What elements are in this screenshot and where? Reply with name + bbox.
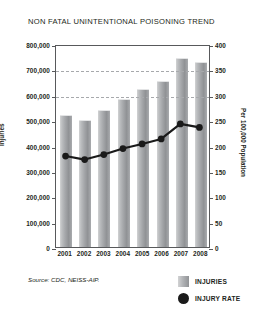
y-axis-right-title: Per 100,000 Population — [240, 108, 247, 177]
y-axis-left-tick — [52, 198, 56, 199]
y-axis-left-tick — [52, 97, 56, 98]
y-axis-right-tick-label: 350 — [215, 67, 226, 74]
y-axis-left-tick — [52, 122, 56, 123]
gridline — [56, 97, 209, 98]
injury-rate-marker — [139, 141, 146, 148]
y-axis-left-tick — [52, 71, 56, 72]
y-axis-right-tick — [209, 97, 213, 98]
y-axis-right-tick-label: 50 — [215, 219, 222, 226]
y-axis-right-tick — [209, 148, 213, 149]
y-axis-left-tick — [52, 173, 56, 174]
y-axis-right-tick-label: 150 — [215, 168, 226, 175]
x-axis-tick-label: 2004 — [116, 250, 131, 257]
y-axis-left-title: Injuries — [0, 124, 5, 146]
chart-container: NON FATAL UNINTENTIONAL POISONING TREND … — [0, 0, 271, 320]
injury-rate-marker — [62, 153, 69, 160]
chart-legend: INJURIES INJURY RATE — [178, 276, 240, 310]
y-axis-right-tick — [209, 122, 213, 123]
y-axis-left-tick-label: 0 — [46, 245, 50, 252]
gridline — [56, 71, 209, 72]
y-axis-right-tick — [209, 71, 213, 72]
x-axis-tick-label: 2005 — [135, 250, 150, 257]
legend-label-injuries: INJURIES — [195, 278, 227, 285]
y-axis-left-tick — [52, 148, 56, 149]
y-axis-left-tick-label: 300,000 — [26, 168, 50, 175]
circle-marker-icon — [178, 293, 189, 304]
y-axis-left-tick-label: 600,000 — [26, 92, 50, 99]
injury-rate-marker — [196, 124, 203, 131]
injury-rate-marker — [158, 136, 165, 143]
y-axis-right-tick — [209, 198, 213, 199]
square-swatch-icon — [178, 276, 189, 287]
injury-rate-line-layer — [56, 46, 209, 247]
y-axis-left-tick-label: 500,000 — [26, 118, 50, 125]
y-axis-right-tick-label: 400 — [215, 42, 226, 49]
injury-rate-line — [66, 124, 200, 160]
y-axis-right-tick-label: 100 — [215, 194, 226, 201]
injury-rate-marker — [120, 145, 127, 152]
y-axis-left-labels: 0100,000200,000300,000400,000500,000600,… — [0, 45, 53, 248]
y-axis-right-tick-label: 250 — [215, 118, 226, 125]
x-axis-labels: 20012002200320042005200620072008 — [55, 250, 210, 262]
y-axis-left-tick-label: 700,000 — [26, 67, 50, 74]
injury-rate-marker — [81, 156, 88, 163]
x-axis-tick-label: 2008 — [193, 250, 208, 257]
x-axis-tick-label: 2007 — [174, 250, 189, 257]
y-axis-left-tick-label: 400,000 — [26, 143, 50, 150]
y-axis-right-tick-label: 200 — [215, 143, 226, 150]
x-axis-tick-label: 2006 — [154, 250, 169, 257]
x-axis-tick-label: 2001 — [57, 250, 72, 257]
y-axis-left-tick-label: 100,000 — [26, 219, 50, 226]
y-axis-right-tick — [209, 46, 213, 47]
y-axis-right-tick-label: 300 — [215, 92, 226, 99]
y-axis-left-tick — [52, 46, 56, 47]
plot-area — [55, 45, 210, 248]
injury-rate-marker — [100, 151, 107, 158]
y-axis-right-tick — [209, 173, 213, 174]
y-axis-left-tick — [52, 224, 56, 225]
source-note: Source: CDC, NEISS-AIP. — [28, 276, 99, 283]
y-axis-right-tick-label: 0 — [215, 245, 219, 252]
x-axis-tick-label: 2003 — [96, 250, 111, 257]
legend-item-injury-rate: INJURY RATE — [178, 293, 240, 304]
y-axis-right-tick — [209, 224, 213, 225]
legend-label-injury-rate: INJURY RATE — [195, 295, 240, 302]
y-axis-left-tick-label: 200,000 — [26, 194, 50, 201]
chart-title: NON FATAL UNINTENTIONAL POISONING TREND — [28, 17, 215, 26]
y-axis-left-tick-label: 800,000 — [26, 42, 50, 49]
x-axis-tick-label: 2002 — [77, 250, 92, 257]
injury-rate-marker — [177, 121, 184, 128]
legend-item-injuries: INJURIES — [178, 276, 240, 287]
